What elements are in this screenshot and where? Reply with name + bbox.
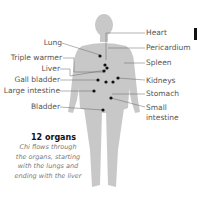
label-heart: Heart	[146, 29, 167, 37]
label-liver: Liver	[30, 65, 60, 73]
label-bladder: Bladder	[20, 103, 60, 111]
label-pericardium: Pericardium	[146, 44, 191, 52]
label-gall-bladder: Gall bladder	[5, 76, 60, 84]
label-kidneys: Kidneys	[146, 77, 175, 85]
label-large-intestine: Large intestine	[0, 87, 60, 95]
label-small-intestine-2: intestine	[146, 114, 179, 122]
diagram-description: Chi flows through the organs, starting w…	[14, 143, 82, 181]
label-stomach: Stomach	[146, 90, 179, 98]
diagram-title: 12 organs	[26, 133, 81, 142]
label-lung: Lung	[40, 39, 62, 47]
label-small-intestine-1: Small	[146, 104, 167, 112]
label-triple-warmer: Triple warmer	[10, 54, 62, 62]
edge-bar	[194, 28, 197, 40]
label-spleen: Spleen	[146, 59, 172, 67]
